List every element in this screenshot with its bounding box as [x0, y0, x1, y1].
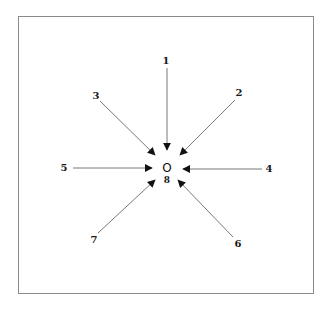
arrow-7 [98, 180, 155, 233]
arrow-label-5: 5 [61, 163, 68, 173]
arrow-label-1: 1 [163, 56, 170, 66]
arrows-layer [0, 0, 333, 312]
center-point-symbol: O [162, 162, 171, 174]
arrow-label-3: 3 [93, 91, 100, 101]
arrow-3 [100, 101, 155, 155]
arrow-label-4: 4 [266, 164, 273, 174]
arrow-label-7: 7 [91, 235, 98, 245]
arrow-6 [178, 180, 233, 237]
arrow-label-2: 2 [236, 88, 243, 98]
arrow-label-6: 6 [235, 239, 242, 249]
arrow-2 [180, 100, 235, 155]
center-point-label: 8 [164, 176, 170, 185]
